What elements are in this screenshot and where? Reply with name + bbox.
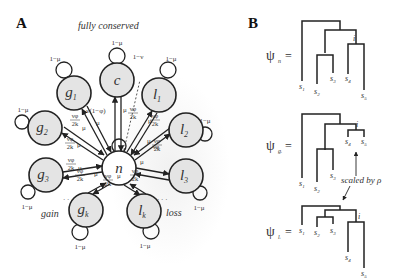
svg-text:1−μ: 1−μ (49, 55, 60, 63)
svg-text:=: = (285, 139, 292, 153)
node-gk: gk (69, 193, 103, 227)
svg-text:s5: s5 (361, 137, 367, 147)
svg-text:μ: μ (140, 158, 144, 166)
svg-text:2k: 2k (72, 120, 79, 127)
svg-text:s2: s2 (314, 228, 320, 238)
svg-text:ν(1−φ): ν(1−φ) (86, 107, 106, 115)
gain-label: gain (41, 208, 59, 219)
svg-text:1−μ: 1−μ (74, 243, 85, 251)
svg-text:=: = (285, 49, 292, 63)
svg-text:n: n (278, 58, 281, 64)
svg-text:μ: μ (77, 141, 81, 149)
svg-text:μ: μ (94, 170, 98, 178)
tree-psi-n: i s1 s2 s3 s4 s5 (299, 21, 367, 101)
svg-text:=: = (285, 225, 292, 239)
svg-text:lᵢ: lᵢ (278, 234, 281, 240)
tree-psi-l: i s1 s2 s3 s4 s5 (299, 206, 367, 279)
svg-text:1−μ: 1−μ (17, 106, 28, 114)
svg-text:1−μ: 1−μ (111, 39, 122, 47)
svg-text:2k: 2k (68, 164, 75, 171)
svg-text:gᵢ: gᵢ (278, 148, 282, 154)
node-l1: l1 (142, 78, 176, 112)
svg-text:s5: s5 (361, 91, 367, 101)
node-lk: lk (127, 194, 161, 228)
svg-text:μ: μ (82, 124, 86, 132)
svg-text:s3: s3 (330, 171, 336, 181)
svg-text:μ: μ (96, 119, 100, 127)
svg-text:2k: 2k (105, 180, 112, 187)
loss-label: loss (166, 207, 182, 218)
node-g1: g1 (57, 76, 91, 110)
svg-text:ψ: ψ (266, 224, 275, 239)
svg-text:i: i (358, 212, 360, 221)
svg-text:μ: μ (117, 172, 121, 180)
svg-text:νφ: νφ (68, 156, 75, 163)
svg-text:νφ: νφ (152, 112, 159, 119)
figure-canvas: A fully conserved (0, 0, 405, 280)
svg-text:scaled by ρ: scaled by ρ (341, 175, 382, 185)
node-l3: l3 (169, 159, 203, 193)
svg-text:ψ: ψ (266, 48, 275, 63)
panel-b-label: B (248, 15, 258, 31)
svg-text:i: i (356, 120, 358, 129)
svg-text:νφ: νφ (72, 112, 79, 119)
psi-n-label: ψ n = (266, 48, 292, 64)
svg-text:s2: s2 (314, 87, 320, 97)
svg-text:s4: s4 (345, 253, 351, 263)
gain-ellipsis: · · · (63, 196, 74, 204)
svg-text:s4: s4 (345, 74, 351, 84)
svg-text:μ: μ (147, 137, 151, 145)
svg-text:1−μ: 1−μ (193, 204, 204, 212)
psi-l-label: ψ lᵢ = (266, 224, 292, 240)
svg-text:2k: 2k (67, 143, 74, 150)
svg-text:ψ: ψ (266, 138, 275, 153)
svg-text:1−μ: 1−μ (165, 55, 176, 63)
svg-text:2k: 2k (152, 120, 159, 127)
svg-text:νφ: νφ (130, 105, 137, 112)
svg-text:s4: s4 (345, 137, 351, 147)
svg-text:νφ: νφ (67, 135, 74, 142)
svg-text:s1: s1 (299, 179, 305, 189)
svg-text:2k: 2k (132, 175, 139, 182)
node-g3: g3 (29, 158, 63, 192)
svg-text:s3: s3 (330, 74, 336, 84)
svg-text:s1: s1 (299, 226, 305, 236)
svg-text:c: c (114, 72, 121, 88)
svg-text:νφ: νφ (77, 167, 84, 174)
svg-text:s1: s1 (299, 82, 305, 92)
svg-text:1−μ: 1−μ (21, 203, 32, 211)
psi-g-label: ψ gᵢ = (266, 138, 292, 154)
svg-text:s5: s5 (361, 269, 367, 279)
svg-text:1−μ: 1−μ (199, 117, 210, 125)
svg-text:νφ: νφ (105, 172, 112, 179)
svg-text:1−ν: 1−ν (133, 53, 144, 61)
svg-text:νφ: νφ (153, 143, 160, 150)
svg-text:2k: 2k (77, 175, 84, 182)
panel-a-label: A (16, 15, 27, 31)
svg-text:μ: μ (123, 106, 127, 114)
svg-text:1−μ: 1−μ (139, 242, 150, 250)
node-g2: g2 (28, 111, 62, 145)
svg-text:2k: 2k (130, 113, 137, 120)
node-l2: l2 (169, 113, 203, 147)
svg-text:νφ: νφ (132, 167, 139, 174)
node-c: c (100, 63, 134, 97)
svg-text:s2: s2 (314, 184, 320, 194)
svg-text:i: i (353, 34, 355, 43)
loss-ellipsis: · · · (157, 196, 168, 204)
svg-text:s3: s3 (330, 226, 336, 236)
fully-conserved-title: fully conserved (78, 20, 140, 31)
scaled-by-rho-annotation: scaled by ρ (341, 152, 382, 200)
